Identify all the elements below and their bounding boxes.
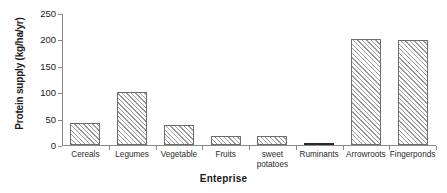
y-axis-tick-label: 0 <box>51 140 56 151</box>
y-axis-tick-label: 200 <box>40 34 56 45</box>
plot-area: 050100150200250 <box>62 14 436 146</box>
x-axis-category-label: Legumes <box>109 150 156 160</box>
bar <box>351 39 381 145</box>
y-axis-tick-mark <box>58 120 62 121</box>
y-axis-tick-label: 50 <box>45 114 56 125</box>
y-axis-title: Protein supply (kg/ha/yr) <box>14 0 25 149</box>
x-axis-category-label: Ruminants <box>296 150 343 160</box>
y-axis-tick-label: 100 <box>40 87 56 98</box>
x-axis-category-label: Cereals <box>62 150 109 160</box>
x-axis-category-label: Fingerponds <box>389 150 436 160</box>
x-axis-tick-mark <box>436 146 437 150</box>
y-axis-tick-mark <box>58 40 62 41</box>
y-axis-tick-mark <box>58 93 62 94</box>
y-axis-tick-mark <box>58 146 62 147</box>
bar <box>117 92 147 145</box>
x-axis-category-label: Vegetable <box>156 150 203 160</box>
x-axis-title: Enteprise <box>0 173 447 184</box>
y-axis-line <box>62 14 63 146</box>
y-axis-tick-mark <box>58 67 62 68</box>
bar <box>398 40 428 145</box>
y-axis-tick-mark <box>58 14 62 15</box>
x-axis-category-label: Arrowroots <box>343 150 390 160</box>
y-axis-tick-label: 150 <box>40 61 56 72</box>
bar <box>211 136 241 146</box>
bar <box>257 136 287 145</box>
bar <box>164 125 194 145</box>
bar <box>70 123 100 145</box>
bar <box>304 143 334 145</box>
x-axis-category-label: sweet potatoes <box>249 150 296 169</box>
x-axis-category-label: Fruits <box>202 150 249 160</box>
y-axis-tick-label: 250 <box>40 8 56 19</box>
bar-chart: Protein supply (kg/ha/yr) 05010015020025… <box>0 0 447 193</box>
